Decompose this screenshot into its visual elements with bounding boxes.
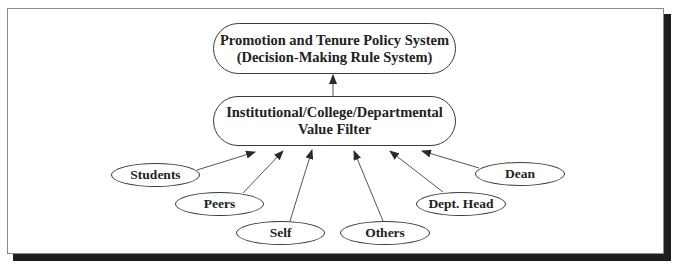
arrow-students [197, 152, 255, 170]
arrow-others [354, 151, 383, 221]
value-filter-subtitle: Value Filter [298, 121, 371, 138]
policy-system-subtitle: (Decision-Making Rule System) [237, 49, 433, 66]
value-filter-title: Institutional/College/Departmental [226, 104, 443, 121]
value-filter-box: Institutional/College/Departmental Value… [213, 96, 456, 146]
arrow-self [290, 150, 312, 221]
node-label: Dean [505, 166, 535, 182]
node-students: Students [111, 163, 200, 187]
arrow-dept-head [390, 151, 443, 192]
node-label: Peers [204, 196, 235, 212]
node-self: Self [236, 221, 325, 245]
arrow-peers [243, 151, 283, 193]
node-dept-head: Dept. Head [416, 192, 506, 216]
node-label: Others [365, 225, 405, 241]
policy-system-title: Promotion and Tenure Policy System [220, 32, 449, 49]
policy-system-box: Promotion and Tenure Policy System (Deci… [213, 23, 456, 74]
node-peers: Peers [175, 192, 264, 216]
node-dean: Dean [475, 162, 565, 186]
node-label: Dept. Head [428, 196, 493, 212]
node-label: Students [130, 167, 180, 183]
node-label: Self [270, 225, 292, 241]
node-others: Others [340, 221, 430, 245]
arrow-dean [422, 151, 479, 168]
